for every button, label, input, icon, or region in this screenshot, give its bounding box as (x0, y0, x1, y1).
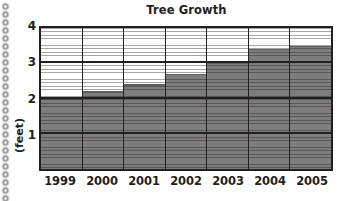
punch-hole-dot (2, 171, 9, 178)
x-tick-label-1999: 1999 (39, 174, 81, 188)
punch-hole-dot (2, 123, 9, 130)
punch-hole-dot (2, 67, 9, 74)
y-tick-label-4: 4 (18, 20, 36, 32)
punch-hole-dot (2, 155, 9, 162)
bar-top-edge (166, 74, 207, 75)
chart-title: Tree Growth (40, 3, 333, 17)
punch-hole-dot (2, 187, 9, 194)
x-axis-tick-labels: 1999200020012002200320042005 (39, 174, 333, 188)
bar-top-edge (207, 63, 248, 64)
bar-top-edge (41, 99, 82, 100)
bar-top-edge (83, 91, 124, 92)
x-tick-label-2000: 2000 (81, 174, 123, 188)
bar-column-2003[interactable] (207, 28, 249, 169)
bar[interactable] (41, 99, 82, 170)
bar[interactable] (249, 49, 290, 169)
punch-hole-dot (2, 107, 9, 114)
bar-column-2005[interactable] (290, 28, 331, 169)
punch-hole-dot (2, 59, 9, 66)
y-axis-tick-labels: 4321 (18, 0, 36, 201)
x-tick-label-2005: 2005 (291, 174, 333, 188)
punch-hole-dot (2, 27, 9, 34)
punch-hole-dot (2, 179, 9, 186)
bar[interactable] (124, 84, 165, 169)
plot-area (39, 26, 333, 171)
bar-column-2001[interactable] (124, 28, 166, 169)
punch-hole-dot (2, 11, 9, 18)
x-tick-label-2003: 2003 (207, 174, 249, 188)
punch-hole-dot (2, 35, 9, 42)
punch-hole-dot (2, 43, 9, 50)
punch-hole-dot (2, 91, 9, 98)
punch-hole-dot (2, 163, 9, 170)
bar[interactable] (207, 63, 248, 169)
y-tick-label-3: 3 (18, 56, 36, 68)
punch-hole-dot (2, 83, 9, 90)
bar-column-1999[interactable] (41, 28, 83, 169)
bar-top-edge (290, 46, 331, 47)
punch-hole-dot (2, 139, 9, 146)
x-tick-label-2002: 2002 (165, 174, 207, 188)
bar-columns (41, 28, 331, 169)
bar-column-2002[interactable] (166, 28, 208, 169)
bar-top-edge (124, 84, 165, 85)
punch-hole-dot (2, 75, 9, 82)
bar[interactable] (83, 91, 124, 169)
bar-column-2004[interactable] (249, 28, 291, 169)
x-tick-label-2001: 2001 (123, 174, 165, 188)
punch-hole-dot (2, 115, 9, 122)
bar-top-edge (249, 49, 290, 50)
bar[interactable] (290, 46, 331, 169)
punch-hole-dot (2, 131, 9, 138)
punch-hole-dot (2, 195, 9, 201)
x-tick-label-2004: 2004 (249, 174, 291, 188)
chart-page: Tree Growth 4321 (feet) 1999200020012002… (0, 0, 345, 201)
punch-hole-dot (2, 147, 9, 154)
y-tick-label-2: 2 (18, 93, 36, 105)
bar[interactable] (166, 74, 207, 169)
notebook-punch-margin (0, 0, 14, 201)
bar-column-2000[interactable] (83, 28, 125, 169)
punch-hole-dot (2, 19, 9, 26)
punch-hole-dot (2, 51, 9, 58)
punch-hole-dot (2, 99, 9, 106)
y-axis-unit-label: (feet) (14, 109, 26, 153)
punch-hole-dot (2, 3, 9, 10)
